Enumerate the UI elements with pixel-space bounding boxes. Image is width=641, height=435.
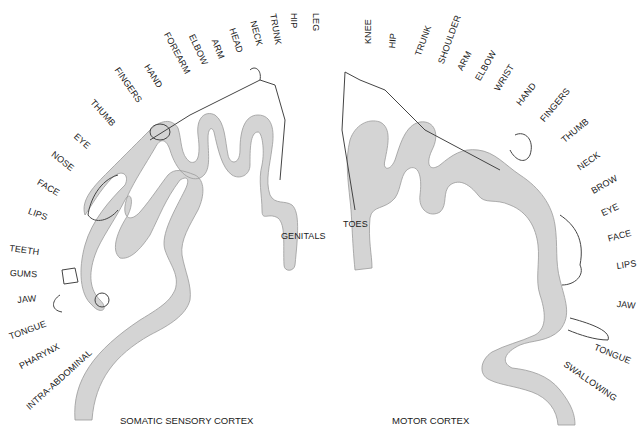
label-toes: TOES xyxy=(343,220,368,229)
label-leg-sensory: LEG xyxy=(311,13,320,31)
label-hip-sensory: HIP xyxy=(289,13,298,28)
label-jaw-motor: JAW xyxy=(616,300,636,311)
cortex-drawing xyxy=(0,0,641,435)
sensory-cortex-title: SOMATIC SENSORY CORTEX xyxy=(120,415,253,426)
label-jaw-sensory: JAW xyxy=(17,294,37,305)
label-hip-motor: HIP xyxy=(388,33,398,49)
label-knee-motor: KNEE xyxy=(364,19,373,44)
label-genitals: GENITALS xyxy=(281,232,326,241)
sensory-cortex-shape xyxy=(75,114,298,420)
motor-cortex-title: MOTOR CORTEX xyxy=(392,415,469,426)
motor-cortex-shape xyxy=(347,121,575,425)
homunculus-diagram: LEG HIP TRUNK NECK HEAD ARM ELBOW FOREAR… xyxy=(0,0,641,435)
label-gums-sensory: GUMS xyxy=(10,269,38,279)
